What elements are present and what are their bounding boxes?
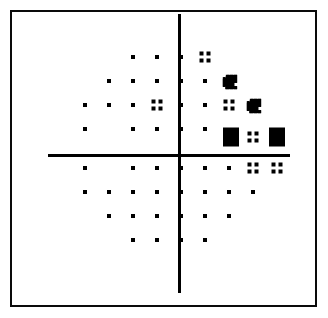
field-point-p5 [152, 100, 163, 111]
quad-dot [159, 107, 163, 111]
quad-dot [200, 52, 204, 56]
field-point-normal [131, 55, 135, 59]
field-point-normal [83, 103, 87, 107]
quad-dot [207, 59, 211, 63]
quad-dot [224, 107, 228, 111]
field-point-normal [251, 190, 255, 194]
field-point-normal [203, 127, 207, 131]
field-point-p5 [224, 100, 235, 111]
field-point-normal [131, 190, 135, 194]
field-point-normal [227, 166, 231, 170]
field-point-normal [203, 79, 207, 83]
field-point-normal [131, 166, 135, 170]
quad-dot [200, 59, 204, 63]
quad-dot [248, 163, 252, 167]
quad-dot [152, 100, 156, 104]
horizontal-axis-line [48, 154, 290, 157]
quad-dot [224, 100, 228, 104]
field-point-normal [131, 238, 135, 242]
field-point-p5 [248, 132, 259, 143]
field-point-normal [203, 103, 207, 107]
quad-dot [255, 163, 259, 167]
field-point-normal [155, 166, 159, 170]
field-point-p5 [272, 163, 283, 174]
field-point-normal [155, 127, 159, 131]
field-point-p1 [247, 99, 262, 114]
field-point-p5 [200, 52, 211, 63]
field-point-normal [83, 190, 87, 194]
field-point-normal [107, 79, 111, 83]
field-point-normal [155, 55, 159, 59]
plot-canvas [0, 0, 328, 318]
field-point-normal [155, 214, 159, 218]
quad-dot [279, 163, 283, 167]
field-point-p5 [248, 163, 259, 174]
quad-dot [255, 170, 259, 174]
field-point-normal [155, 79, 159, 83]
field-point-normal [155, 238, 159, 242]
quad-dot [272, 163, 276, 167]
quad-dot [279, 170, 283, 174]
field-point-normal [179, 238, 183, 242]
field-point-normal [107, 190, 111, 194]
quad-dot [255, 132, 259, 136]
quad-dot [248, 139, 252, 143]
field-point-normal [179, 214, 183, 218]
field-point-normal [179, 55, 183, 59]
field-point-normal [131, 127, 135, 131]
field-point-normal [107, 214, 111, 218]
quad-dot [152, 107, 156, 111]
field-point-normal [227, 190, 231, 194]
quad-dot [231, 100, 235, 104]
field-point-normal [203, 166, 207, 170]
quad-dot [248, 132, 252, 136]
field-point-normal [107, 103, 111, 107]
field-point-normal [203, 190, 207, 194]
visual-field-plot [0, 0, 328, 318]
field-point-normal [203, 214, 207, 218]
field-point-normal [203, 238, 207, 242]
field-point-normal [179, 166, 183, 170]
field-point-p05 [223, 128, 239, 147]
field-point-normal [131, 79, 135, 83]
field-point-normal [131, 214, 135, 218]
field-point-normal [179, 103, 183, 107]
field-point-p05 [269, 128, 285, 147]
quad-dot [255, 139, 259, 143]
field-point-normal [155, 190, 159, 194]
quad-dot [207, 52, 211, 56]
field-point-normal [179, 127, 183, 131]
field-point-normal [83, 166, 87, 170]
field-point-normal [131, 103, 135, 107]
quad-dot [272, 170, 276, 174]
quad-dot [159, 100, 163, 104]
quad-dot [248, 170, 252, 174]
field-point-normal [83, 127, 87, 131]
field-point-normal [227, 214, 231, 218]
field-point-normal [179, 79, 183, 83]
field-point-p1 [223, 75, 238, 90]
quad-dot [231, 107, 235, 111]
field-point-normal [179, 190, 183, 194]
